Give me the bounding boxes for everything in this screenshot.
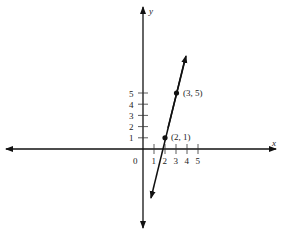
point-3-5 [174, 90, 179, 95]
x-tick-label: 4 [185, 156, 190, 166]
point-label-2-1: (2, 1) [171, 132, 191, 142]
y-tick-label: 2 [129, 122, 134, 132]
origin-label: 0 [133, 156, 138, 166]
x-axis-label: x [271, 138, 276, 148]
x-tick-label: 5 [196, 156, 201, 166]
point-2-1 [162, 135, 167, 140]
x-tick-label: 2 [163, 156, 168, 166]
y-tick-label: 4 [129, 100, 134, 110]
y-tick-label: 5 [129, 89, 134, 99]
x-tick-label: 1 [152, 156, 157, 166]
y-tick-label: 3 [129, 111, 134, 121]
y-axis-label: y [148, 6, 153, 16]
y-tick-label: 1 [129, 133, 134, 143]
coordinate-plane: 0 1 2 3 4 5 1 2 3 4 5 x y (2, 1) (3, 5) [0, 0, 282, 231]
point-label-3-5: (3, 5) [183, 88, 203, 98]
x-tick-label: 3 [174, 156, 179, 166]
